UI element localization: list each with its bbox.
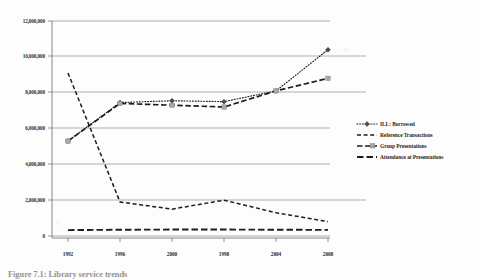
series-reference-transactions bbox=[68, 73, 328, 222]
x-tick-label: 2004 bbox=[271, 251, 282, 257]
x-tick-label: 2000 bbox=[167, 251, 178, 257]
y-tick-label: 2,000,000 bbox=[25, 197, 45, 203]
legend-label: Reference Transactions bbox=[380, 132, 433, 138]
x-tick-label: 1998 bbox=[219, 251, 230, 257]
legend: ILL: Borrowed Reference Transactions Gro… bbox=[357, 121, 443, 160]
y-tick-label: 4,000,000 bbox=[25, 161, 45, 167]
x-ticks bbox=[68, 238, 328, 242]
series-line bbox=[68, 50, 328, 141]
diamond-marker-icon bbox=[365, 121, 370, 126]
axes bbox=[52, 21, 330, 238]
square-marker-icon bbox=[222, 105, 226, 109]
y-tick-label: 12,000,000 bbox=[23, 18, 46, 24]
x-tick-label: 1992 bbox=[63, 251, 74, 257]
diamond-marker-icon bbox=[170, 98, 175, 103]
y-tick-label: 0 bbox=[43, 233, 46, 239]
legend-item-group-presentations[interactable]: Group Presentations bbox=[357, 143, 427, 149]
legend-item-attendance-at-presentations[interactable]: Attendance at Presentations bbox=[357, 154, 443, 160]
square-marker-icon bbox=[66, 139, 70, 143]
series-layer bbox=[66, 47, 331, 230]
x-tick-labels: 1992 1996 2000 1998 2004 2008 bbox=[63, 251, 334, 257]
y-tick-label: 10,000,000 bbox=[23, 53, 46, 59]
square-marker-icon bbox=[274, 89, 278, 93]
gridlines bbox=[52, 21, 366, 236]
legend-label: Group Presentations bbox=[380, 143, 427, 149]
square-marker-icon bbox=[370, 144, 374, 148]
y-tick-label: 6,000,000 bbox=[25, 125, 45, 131]
y-tick-label: 8,000,000 bbox=[25, 89, 45, 95]
series-group-presentations bbox=[66, 76, 330, 143]
square-marker-icon bbox=[170, 103, 174, 107]
series-line bbox=[68, 73, 328, 222]
y-ticks bbox=[48, 21, 52, 236]
legend-label: ILL: Borrowed bbox=[380, 121, 415, 127]
legend-item-ill-borrowed[interactable]: ILL: Borrowed bbox=[357, 121, 415, 127]
y-tick-labels: 12,000,000 10,000,000 8,000,000 6,000,00… bbox=[23, 18, 46, 239]
series-line bbox=[68, 230, 328, 231]
x-tick-label: 1996 bbox=[115, 251, 126, 257]
legend-label: Attendance at Presentations bbox=[380, 154, 443, 160]
square-marker-icon bbox=[118, 101, 122, 105]
series-ill-borrowed bbox=[66, 47, 331, 143]
square-marker-icon bbox=[326, 76, 330, 80]
legend-item-reference-transactions[interactable]: Reference Transactions bbox=[357, 132, 433, 138]
series-line bbox=[68, 78, 328, 141]
diamond-marker-icon bbox=[222, 99, 227, 104]
figure-caption: Figure 7.1: Library service trends bbox=[8, 269, 127, 279]
series-attendance-at-presentations bbox=[68, 230, 328, 231]
x-tick-label: 2008 bbox=[323, 251, 334, 257]
